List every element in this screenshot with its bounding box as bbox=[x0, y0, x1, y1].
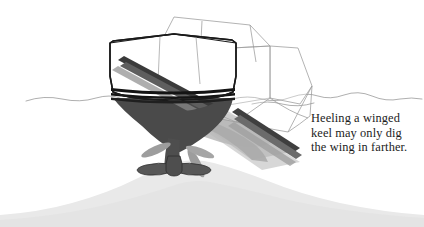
winged-keel-heeling-diagram: Heeling a winged keel may only dig the w… bbox=[0, 0, 424, 227]
caption-line-2: keel may only dig bbox=[311, 126, 423, 141]
caption-line-3: the wing in farther. bbox=[311, 140, 423, 155]
seabed-mound bbox=[0, 160, 424, 227]
winged-keel bbox=[137, 156, 211, 176]
caption: Heeling a winged keel may only dig the w… bbox=[311, 111, 423, 155]
caption-line-1: Heeling a winged bbox=[311, 111, 423, 126]
